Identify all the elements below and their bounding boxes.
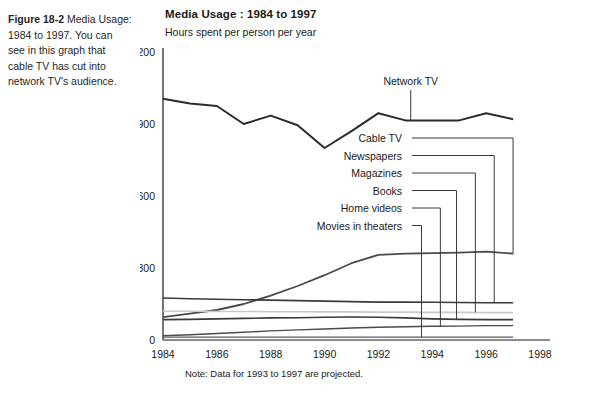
series-callout-leader-books	[412, 191, 457, 320]
series-line-magazines	[163, 311, 513, 312]
x-axis-tick-labels: 19841986198819901992199419961998	[151, 348, 552, 360]
series-callout-label-magazines: Magazines	[351, 167, 402, 179]
series-callout-label-cable-tv: Cable TV	[358, 132, 402, 144]
y-axis-tick-label: 900	[140, 118, 155, 130]
series-line-cable-tv	[163, 252, 513, 318]
series-line-newspapers	[163, 298, 513, 303]
y-axis-tick-label: 1,200	[140, 46, 155, 58]
line-chart-plot: 03006009001,200 198419861988199019921994…	[140, 0, 595, 394]
series-callout-label-newspapers: Newspapers	[344, 150, 402, 162]
series-line-home-videos	[163, 326, 513, 336]
y-axis-tick-label: 300	[140, 262, 155, 274]
x-axis-tick-label: 1998	[528, 348, 552, 360]
chart-axes	[163, 48, 550, 340]
series-callout-label-home-videos: Home videos	[341, 202, 402, 214]
series-callout-label-books: Books	[373, 185, 402, 197]
x-axis-tick-label: 1986	[205, 348, 229, 360]
series-line-books	[163, 317, 513, 320]
x-axis-tick-label: 1996	[474, 348, 498, 360]
chart-panel: Media Usage : 1984 to 1997 Hours spent p…	[140, 0, 595, 394]
y-axis-tick-label: 0	[149, 334, 155, 346]
y-axis-tick-label: 600	[140, 190, 155, 202]
x-axis-tick-label: 1992	[367, 348, 391, 360]
figure-caption: Figure 18-2 Media Usage: 1984 to 1997. Y…	[8, 12, 132, 90]
x-axis-tick-label: 1990	[313, 348, 337, 360]
y-axis-tick-labels: 03006009001,200	[140, 46, 155, 346]
series-callout-label-movies-in-theaters: Movies in theaters	[317, 220, 402, 232]
figure-number: Figure 18-2	[8, 13, 64, 25]
series-line-network-tv	[163, 99, 513, 148]
series-callout-label-network-tv: Network TV	[383, 75, 438, 87]
x-axis-tick-label: 1984	[151, 348, 175, 360]
series-callout-leader-movies-in-theaters	[412, 226, 422, 338]
x-axis-tick-label: 1988	[259, 348, 283, 360]
series-callout-leader-newspapers	[412, 156, 494, 303]
chart-series-lines	[163, 99, 513, 337]
x-axis-tick-label: 1994	[421, 348, 445, 360]
